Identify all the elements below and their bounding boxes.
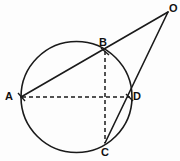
vertex-label-d: D xyxy=(133,91,141,102)
geometry-canvas xyxy=(0,0,180,161)
vertex-markers xyxy=(18,48,133,101)
geometry-figure: A B C D O xyxy=(0,0,180,161)
vertex-label-a: A xyxy=(5,91,13,102)
vertex-label-b: B xyxy=(99,37,107,48)
vertex-label-o: O xyxy=(169,3,178,14)
line-a-b-o xyxy=(21,12,168,97)
vertex-label-c: C xyxy=(101,147,109,158)
line-c-d-o xyxy=(105,12,168,143)
